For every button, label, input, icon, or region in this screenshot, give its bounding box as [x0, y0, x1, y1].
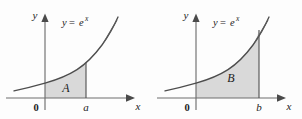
panel-right: y x 0 b B y = e x — [151, 0, 302, 119]
equation-operator-left: = — [69, 17, 75, 28]
upper-bound-label-a: a — [83, 101, 89, 113]
y-axis-arrow-right — [192, 14, 199, 23]
x-axis-label-right: x — [286, 100, 292, 112]
panel-left: y x 0 a A y = e x — [0, 0, 151, 119]
curve-equation-right: y = e x — [212, 14, 240, 28]
x-axis-label-left: x — [135, 100, 141, 112]
equation-function-right: e — [230, 17, 235, 28]
equation-exponent-right: x — [235, 14, 240, 23]
region-label-a: A — [61, 81, 70, 95]
y-axis-arrow-left — [41, 14, 48, 23]
y-axis-label-left: y — [32, 9, 38, 21]
origin-label-left: 0 — [33, 102, 38, 113]
curve-equation-left: y = e x — [61, 14, 89, 28]
y-axis-label-right: y — [183, 9, 189, 21]
equation-base-right: y — [212, 17, 218, 28]
upper-bound-label-b: b — [256, 101, 262, 113]
shaded-region-b — [196, 30, 259, 98]
equation-function-left: e — [79, 17, 84, 28]
equation-leader-right — [255, 20, 268, 42]
equation-base-left: y — [61, 17, 67, 28]
region-label-b: B — [227, 71, 235, 85]
equation-operator-right: = — [220, 17, 226, 28]
origin-label-right: 0 — [184, 102, 189, 113]
figure-container: y x 0 a A y = e x y x 0 b — [0, 0, 302, 119]
equation-leader-left — [104, 20, 117, 42]
x-axis-arrow-right — [277, 94, 286, 102]
equation-exponent-left: x — [84, 14, 89, 23]
x-axis-arrow-left — [126, 94, 135, 102]
